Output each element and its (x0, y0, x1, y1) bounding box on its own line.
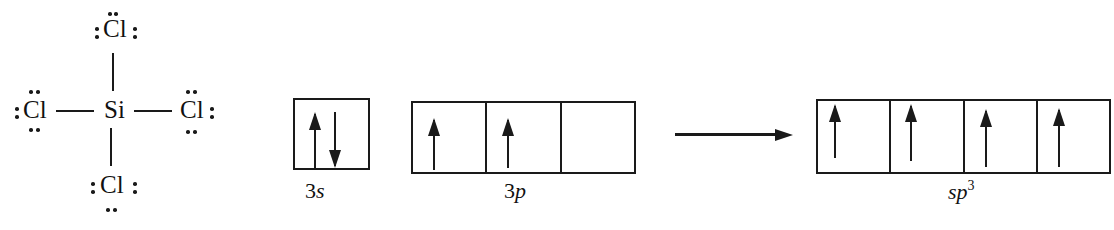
atom-cl-right: Cl (180, 97, 204, 122)
lone-pair-dot (29, 90, 33, 94)
orbital-3p (411, 101, 636, 174)
lone-pair-dot (108, 12, 112, 16)
spin-up-arrow-icon (910, 106, 912, 161)
orbital-label-3p: 3p (504, 178, 526, 204)
lone-pair-dot (91, 182, 95, 186)
lone-pair-dot (210, 115, 214, 119)
spin-up-arrow-icon (314, 114, 316, 168)
lone-pair-dot (133, 27, 137, 31)
lone-pair-dot (133, 182, 137, 186)
lone-pair-dot (193, 130, 197, 134)
orbital-sp3 (816, 99, 1111, 174)
lone-pair-dot (193, 90, 197, 94)
bond-left (56, 110, 94, 112)
orbital-box-3p-2 (487, 103, 561, 172)
lone-pair-dot (95, 27, 99, 31)
orbital-box-sp3-3 (965, 101, 1038, 172)
spin-up-arrow-icon (985, 111, 987, 167)
lone-pair-dot (95, 35, 99, 39)
bond-right (134, 110, 172, 112)
lone-pair-dot (210, 107, 214, 111)
spin-up-arrow-icon (433, 120, 435, 170)
bond-bottom (110, 128, 112, 166)
orbital-label-sp3: sp3 (948, 178, 975, 205)
bond-top (112, 53, 114, 91)
spin-up-arrow-icon (834, 106, 836, 158)
lone-pair-dot (36, 90, 40, 94)
lone-pair-dot (15, 115, 19, 119)
orbital-box-sp3-2 (891, 101, 964, 172)
spin-up-arrow-icon (1058, 110, 1060, 167)
orbital-box-3p-3 (562, 103, 634, 172)
orbital-box-sp3-4 (1038, 101, 1109, 172)
lone-pair-dot (133, 35, 137, 39)
lone-pair-dot (133, 190, 137, 194)
orbital-box-3p-1 (413, 103, 487, 172)
orbital-3s (293, 98, 370, 170)
lone-pair-dot (186, 90, 190, 94)
lone-pair-dot (114, 12, 118, 16)
lone-pair-dot (15, 107, 19, 111)
lone-pair-dot (106, 208, 110, 212)
atom-cl-top: Cl (103, 16, 127, 41)
lone-pair-dot (36, 128, 40, 132)
orbital-box-sp3-1 (818, 101, 891, 172)
spin-down-arrow-icon (334, 112, 336, 166)
atom-cl-left: Cl (23, 97, 47, 122)
lone-pair-dot (91, 190, 95, 194)
lone-pair-dot (113, 208, 117, 212)
lone-pair-dot (186, 130, 190, 134)
atom-si-center: Si (104, 97, 125, 122)
lone-pair-dot (29, 128, 33, 132)
orbital-box-3s (295, 100, 368, 168)
spin-up-arrow-icon (507, 120, 509, 168)
orbital-label-3s: 3s (305, 178, 325, 204)
atom-cl-bottom: Cl (100, 172, 124, 197)
